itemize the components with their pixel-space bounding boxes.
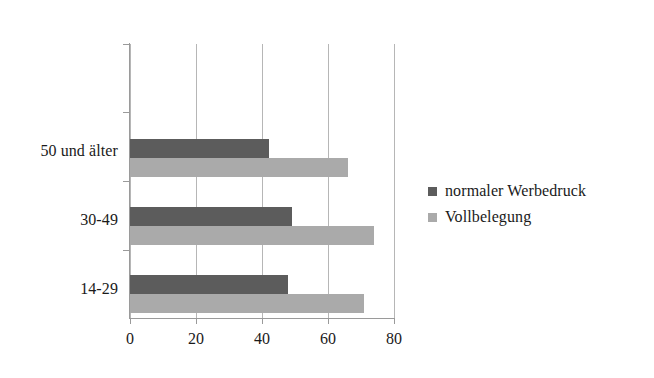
legend-item-vollbelegung: Vollbelegung: [428, 206, 648, 232]
bar-chart: 50 und älter 30-49 14-29 0 20 40 60 80 n…: [0, 0, 654, 378]
y-tick-label-30-49: 30-49: [0, 211, 118, 229]
x-tick-0: [130, 318, 131, 324]
legend: normaler Werbedruck Vollbelegung: [428, 180, 648, 232]
legend-swatch-icon-vollbelegung: [428, 213, 437, 222]
x-tick-label-80: 80: [374, 330, 414, 348]
x-tick-60: [328, 318, 329, 324]
y-tick-label-14-29: 14-29: [0, 280, 118, 298]
y-tick-1: [123, 112, 130, 113]
x-tick-80: [394, 318, 395, 324]
legend-label-vollbelegung: Vollbelegung: [445, 206, 531, 228]
x-tick-label-0: 0: [110, 330, 150, 348]
bar-50-und-aelter-vollbelegung: [130, 158, 348, 177]
bar-50-und-aelter-normaler-werbedruck: [130, 139, 269, 158]
x-tick-20: [196, 318, 197, 324]
gridline-60: [328, 44, 329, 318]
bar-30-49-vollbelegung: [130, 226, 374, 245]
legend-label-normaler-werbedruck: normaler Werbedruck: [445, 180, 586, 202]
legend-swatch-icon-normaler-werbedruck: [428, 187, 437, 196]
y-tick-label-50-und-aelter: 50 und älter: [0, 142, 118, 160]
x-tick-40: [262, 318, 263, 324]
x-tick-label-20: 20: [176, 330, 216, 348]
y-tick-2: [123, 181, 130, 182]
bar-14-29-normaler-werbedruck: [130, 275, 288, 294]
y-tick-3: [123, 250, 130, 251]
legend-item-normaler-werbedruck: normaler Werbedruck: [428, 180, 648, 206]
y-tick-top: [123, 44, 130, 45]
gridline-80: [394, 44, 395, 318]
plot-area: [130, 44, 394, 318]
bar-14-29-vollbelegung: [130, 294, 364, 313]
x-tick-label-60: 60: [308, 330, 348, 348]
bar-30-49-normaler-werbedruck: [130, 207, 292, 226]
x-tick-label-40: 40: [242, 330, 282, 348]
